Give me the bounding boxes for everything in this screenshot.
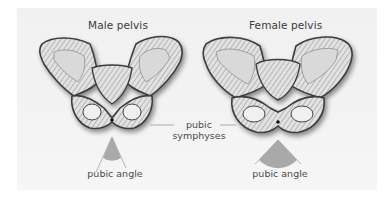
male-pelvis-illustration xyxy=(40,37,182,129)
label-line-2: symphyses xyxy=(168,130,230,141)
female-pubic-angle-label: pubic angle xyxy=(245,168,315,179)
label-line-1: pubic xyxy=(168,119,230,130)
male-pubic-angle-wedge xyxy=(103,137,121,161)
male-pubic-angle-label: pubic angle xyxy=(80,168,150,179)
male-pelvis-title: Male pelvis xyxy=(88,19,148,31)
female-pelvis-title: Female pelvis xyxy=(249,19,322,31)
pubic-symphyses-label: pubic symphyses xyxy=(168,119,230,141)
pelvis-illustrations xyxy=(0,0,389,198)
